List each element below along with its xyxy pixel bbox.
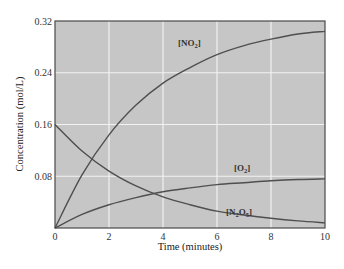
y-tick-label: 0.24 (35, 67, 53, 78)
x-tick-label: 2 (107, 231, 112, 242)
y-tick-label: 0.32 (35, 16, 53, 27)
concentration-chart: 0246810 0.080.160.240.32 Time (minutes) … (0, 0, 344, 269)
y-axis-ticks: 0.080.160.240.32 (35, 16, 53, 182)
label-o2: [O2] (234, 163, 250, 174)
label-n2o5: [N2O5] (226, 207, 252, 218)
y-tick-label: 0.16 (35, 119, 53, 130)
x-tick-label: 10 (320, 231, 330, 242)
y-tick-label: 0.08 (35, 171, 53, 182)
label-no2: [NO2] (178, 38, 201, 49)
x-tick-label: 8 (269, 231, 274, 242)
y-axis-label: Concentration (mol/L) (14, 76, 26, 171)
x-axis-label: Time (minutes) (158, 241, 223, 253)
x-tick-label: 0 (53, 231, 58, 242)
